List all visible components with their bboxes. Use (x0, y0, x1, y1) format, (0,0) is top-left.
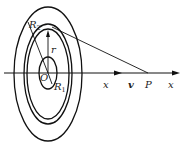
radius-r-arrow-icon (46, 30, 50, 37)
label-x-mid: x (103, 79, 109, 90)
label-R1: R1 (53, 81, 66, 94)
radius-R1-line (48, 73, 52, 84)
velocity-arrow-icon (114, 71, 122, 76)
label-v: v (128, 79, 134, 90)
label-P: P (144, 79, 152, 90)
label-O: O (40, 72, 48, 83)
label-R2: R2 (28, 19, 41, 32)
diagram-canvas: R2 r O R1 x v P x (0, 0, 185, 152)
label-x-axis: x (168, 79, 174, 90)
label-r: r (51, 44, 57, 55)
x-axis-arrow-icon (172, 71, 180, 76)
